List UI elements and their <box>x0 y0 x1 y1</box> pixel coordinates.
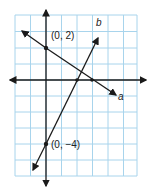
point-label-0-2: (0, 2) <box>51 30 74 41</box>
point-0-2 <box>44 46 48 50</box>
line-label-b: b <box>96 17 102 28</box>
point-label-0-neg4: (0, −4) <box>51 139 80 150</box>
line-a <box>22 31 46 48</box>
coordinate-graph <box>0 0 153 190</box>
line-label-a: a <box>118 91 124 102</box>
point-0-neg4 <box>44 142 48 146</box>
